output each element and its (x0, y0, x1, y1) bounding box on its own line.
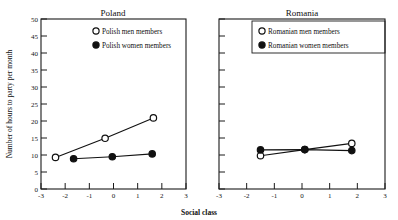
series-polish-men (52, 115, 156, 161)
x-tick-label: 3 (184, 192, 188, 200)
data-point-marker (52, 154, 58, 160)
y-ticks-poland (41, 19, 47, 189)
chart-figure: Number of hours to party per month Socia… (0, 0, 398, 220)
y-tick-label: 30 (31, 84, 39, 92)
x-tick-label: -1 (271, 192, 277, 200)
data-point-marker (150, 115, 156, 121)
y-tick-label: 45 (31, 33, 39, 41)
series-polish-women (70, 151, 155, 162)
x-tick-label: -3 (38, 192, 44, 200)
x-tick-label: -1 (86, 192, 92, 200)
x-tick-label: -2 (244, 192, 250, 200)
legend-romania: Romanian men members Romanian women memb… (252, 21, 385, 53)
legend-marker-open-circle-icon (259, 28, 265, 34)
panel-romania: Romania (216, 8, 387, 200)
x-tick-labels-poland: -3 -2 -1 0 1 2 3 (38, 192, 188, 200)
x-tick-label: 0 (112, 192, 116, 200)
data-point-marker (109, 154, 115, 160)
data-point-marker (149, 151, 155, 157)
y-tick-label: 10 (31, 152, 39, 160)
legend-marker-open-circle-icon (93, 28, 99, 34)
y-tick-label: 35 (31, 67, 39, 75)
legend-label-polish-women: Polish women members (102, 42, 171, 50)
y-tick-label: 20 (31, 118, 39, 126)
legend-label-romanian-men: Romanian men members (268, 28, 340, 36)
legend-label-romanian-women: Romanian women members (268, 42, 349, 50)
x-tick-labels-romania: -3 -2 -1 0 1 2 3 (216, 192, 387, 200)
y-axis-label: Number of hours to party per month (5, 49, 14, 158)
data-point-marker (257, 147, 263, 153)
x-tick-label: -2 (62, 192, 68, 200)
y-tick-label: 5 (35, 169, 39, 177)
x-tick-label: 3 (383, 192, 387, 200)
x-ticks-poland (41, 183, 186, 189)
data-point-marker (70, 156, 76, 162)
series-romanian-women (257, 146, 355, 153)
x-tick-label: 0 (300, 192, 304, 200)
legend-poland: Polish men members Polish women members (93, 28, 171, 50)
x-ticks-romania (219, 183, 385, 189)
x-tick-label: 2 (356, 192, 360, 200)
x-tick-label: 1 (328, 192, 332, 200)
panel-title-romania: Romania (286, 8, 319, 18)
data-point-marker (349, 147, 355, 153)
y-tick-label: 25 (31, 101, 39, 109)
y-tick-label: 40 (31, 50, 39, 58)
y-axis-label-group: Number of hours to party per month (5, 49, 14, 158)
x-tick-label: 1 (136, 192, 140, 200)
chart-svg: Number of hours to party per month Socia… (0, 0, 398, 220)
x-axis-label: Social class (181, 208, 217, 217)
data-point-marker (102, 135, 108, 141)
panel-title-poland: Poland (100, 8, 126, 18)
legend-label-polish-men: Polish men members (102, 28, 162, 36)
y-tick-label: 50 (31, 16, 39, 24)
legend-marker-filled-circle-icon (93, 42, 99, 48)
x-tick-label: 2 (160, 192, 164, 200)
data-point-marker (349, 140, 355, 146)
y-tick-label: 15 (31, 135, 39, 143)
data-point-marker (302, 146, 308, 152)
panel-poland: Poland 0 5 10 15 (31, 8, 188, 200)
x-tick-label: -3 (216, 192, 222, 200)
y-tick-labels-poland: 0 5 10 15 20 25 30 35 40 45 50 (31, 16, 39, 194)
y-ticks-romania (219, 19, 225, 189)
legend-marker-filled-circle-icon (259, 42, 265, 48)
